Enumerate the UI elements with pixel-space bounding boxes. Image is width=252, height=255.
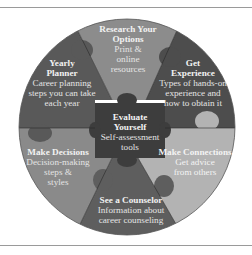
connections-title-1: Make Connections <box>153 147 237 157</box>
decisions-title-1: Make Decisions <box>20 147 96 157</box>
planner-title-1: Yearly <box>22 58 102 68</box>
experience-desc-2: experience and <box>150 88 236 98</box>
label-see-counselor: See a Counselor Information about career… <box>86 195 176 225</box>
planner-title-2: Planner <box>22 68 102 78</box>
knob-counselor-into-connections <box>154 175 174 197</box>
knob-counselor-into-decisions <box>93 169 113 191</box>
label-make-decisions: Make Decisions Decision-making steps & s… <box>20 147 96 187</box>
research-desc-1: Print & <box>86 44 170 54</box>
decisions-desc-3: styles <box>20 177 96 187</box>
center-title-1: Evaluate <box>90 112 170 122</box>
research-title-1: Research Your <box>86 24 170 34</box>
center-desc-1: Self-assessment <box>90 132 170 142</box>
research-title-2: Options <box>86 34 170 44</box>
planner-desc-3: each year <box>22 98 102 108</box>
center-title-2: Yourself <box>90 122 170 132</box>
experience-title-2: Experience <box>150 68 236 78</box>
planner-desc-2: steps you can take <box>22 88 102 98</box>
experience-desc-3: how to obtain it <box>150 98 236 108</box>
experience-title-1: Get <box>150 58 236 68</box>
counselor-desc-2: career counseling <box>86 215 176 225</box>
label-make-connections: Make Connections Get advice from others <box>153 147 237 177</box>
label-yearly-planner: Yearly Planner Career planning steps you… <box>22 58 102 108</box>
planner-desc-1: Career planning <box>22 78 102 88</box>
connections-desc-2: from others <box>153 167 237 177</box>
experience-desc-1: Types of hands-on <box>150 78 236 88</box>
decisions-desc-1: Decision-making <box>20 157 96 167</box>
decisions-desc-2: steps & <box>20 167 96 177</box>
counselor-desc-1: Information about <box>86 205 176 215</box>
label-get-experience: Get Experience Types of hands-on experie… <box>150 58 236 108</box>
connections-desc-1: Get advice <box>153 157 237 167</box>
counselor-title-1: See a Counselor <box>86 195 176 205</box>
label-evaluate-yourself: Evaluate Yourself Self-assessment tools <box>90 112 170 152</box>
knob-decisions-into-planner <box>28 124 52 142</box>
